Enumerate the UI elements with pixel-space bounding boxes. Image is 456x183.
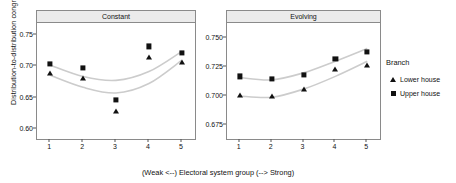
legend: Branch Lower house Upper house [386, 58, 456, 101]
data-point-triangle [332, 67, 338, 72]
y-axis-tick-label: 0.700 [205, 91, 223, 98]
x-axis-tick-mark [115, 139, 116, 142]
y-axis-tick-label: 0.60 [19, 125, 33, 132]
data-point-triangle [269, 94, 275, 99]
data-point-square [365, 49, 370, 54]
x-axis-tick-label: 1 [47, 143, 51, 150]
x-axis-tick-mark [147, 139, 148, 142]
x-axis-tick-mark [270, 139, 271, 142]
x-axis-tick-label: 2 [80, 143, 84, 150]
legend-item-label: Lower house [400, 76, 440, 83]
data-point-square [80, 65, 85, 70]
data-point-square [301, 73, 306, 78]
y-axis-tick-label: 0.75 [19, 30, 33, 37]
data-point-square [146, 44, 151, 49]
y-axis-tick-mark [33, 33, 36, 34]
y-axis-tick-mark [223, 123, 226, 124]
x-axis-tick-mark [302, 139, 303, 142]
panel-evolving: Evolving 0.7500.7250.7000.67512345 [226, 10, 381, 158]
chart-figure: Distribution-to-distribution congruence … [0, 0, 456, 183]
x-axis-tick-label: 5 [179, 143, 183, 150]
panel-constant: Constant 0.750.700.650.6012345 [36, 10, 196, 158]
y-axis-tick-label: 0.65 [19, 93, 33, 100]
y-axis-tick-mark [33, 128, 36, 129]
data-point-triangle [237, 92, 243, 97]
x-axis-label: (Weak <--) Electoral system group (--> S… [58, 168, 378, 177]
data-point-triangle [364, 62, 370, 67]
y-axis-tick-mark [33, 96, 36, 97]
x-axis-tick-label: 3 [113, 143, 117, 150]
y-axis-tick-label: 0.750 [205, 33, 223, 40]
x-axis-tick-label: 4 [146, 143, 150, 150]
x-axis-tick-label: 2 [269, 143, 273, 150]
fit-lines [227, 23, 380, 139]
y-axis-tick-mark [223, 94, 226, 95]
data-point-triangle [47, 71, 53, 76]
x-axis-tick-label: 1 [237, 143, 241, 150]
y-axis-tick-label: 0.675 [205, 120, 223, 127]
legend-item-upper-house: Upper house [386, 87, 456, 99]
y-axis-tick-label: 0.725 [205, 62, 223, 69]
legend-item-label: Upper house [400, 90, 440, 97]
x-axis-tick-mark [180, 139, 181, 142]
x-axis-tick-label: 4 [332, 143, 336, 150]
data-point-square [237, 74, 242, 79]
panel-strip-title-constant: Constant [36, 10, 196, 23]
x-axis-tick-label: 5 [364, 143, 368, 150]
y-axis-tick-mark [33, 65, 36, 66]
panel-strip-title-evolving: Evolving [226, 10, 381, 23]
data-point-triangle [179, 60, 185, 65]
data-point-triangle [113, 109, 119, 114]
plot-area-evolving [226, 23, 381, 140]
x-axis-tick-mark [82, 139, 83, 142]
y-axis-label: Distribution-to-distribution congruence [9, 0, 18, 118]
y-axis-tick-label: 0.70 [19, 62, 33, 69]
data-point-triangle [80, 76, 86, 81]
data-point-square [333, 56, 338, 61]
legend-title: Branch [386, 58, 456, 67]
data-point-square [48, 61, 53, 66]
plot-area-constant [36, 23, 196, 140]
x-axis-tick-mark [49, 139, 50, 142]
data-point-square [179, 50, 184, 55]
x-axis-tick-mark [334, 139, 335, 142]
fit-lines [37, 23, 195, 139]
data-point-triangle [301, 87, 307, 92]
x-axis-tick-mark [366, 139, 367, 142]
x-axis-tick-mark [238, 139, 239, 142]
x-axis-tick-label: 3 [301, 143, 305, 150]
legend-item-lower-house: Lower house [386, 73, 456, 85]
y-axis-tick-mark [223, 36, 226, 37]
fit-line-upper-house [50, 51, 182, 80]
square-icon [386, 91, 400, 96]
y-axis-tick-mark [223, 65, 226, 66]
data-point-triangle [146, 55, 152, 60]
data-point-square [113, 97, 118, 102]
data-point-square [269, 76, 274, 81]
triangle-icon [386, 77, 400, 82]
